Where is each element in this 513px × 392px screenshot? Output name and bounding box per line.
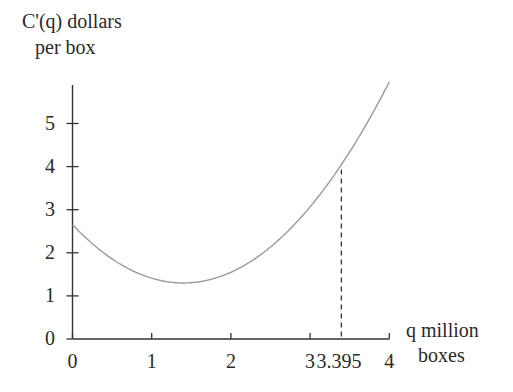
x-tick-label: 2 <box>226 350 236 372</box>
x-axis-label-line1: q million <box>406 319 479 341</box>
y-tick-label: 3 <box>45 198 55 220</box>
x-tick-label: 3 <box>305 350 315 372</box>
y-axis-label-text: C'(q) dollars <box>22 10 122 32</box>
y-tick-label: 0 <box>45 327 55 349</box>
x-tick-label: 4 <box>384 350 394 372</box>
y-axis-label-line2: per box <box>35 36 96 58</box>
x-tick-label: 3.395 <box>316 350 361 372</box>
y-tick-label: 2 <box>45 241 55 263</box>
axes <box>67 85 390 339</box>
y-tick-label: 1 <box>45 284 55 306</box>
y-axis-label-line1: C'(q) dollars <box>22 10 122 32</box>
y-tick-label: 5 <box>45 112 55 134</box>
y-tick-label: 4 <box>45 155 55 177</box>
x-tick-label: 1 <box>147 350 157 372</box>
x-tick-label: 0 <box>68 350 78 372</box>
x-axis-label-line2: boxes <box>418 344 465 366</box>
